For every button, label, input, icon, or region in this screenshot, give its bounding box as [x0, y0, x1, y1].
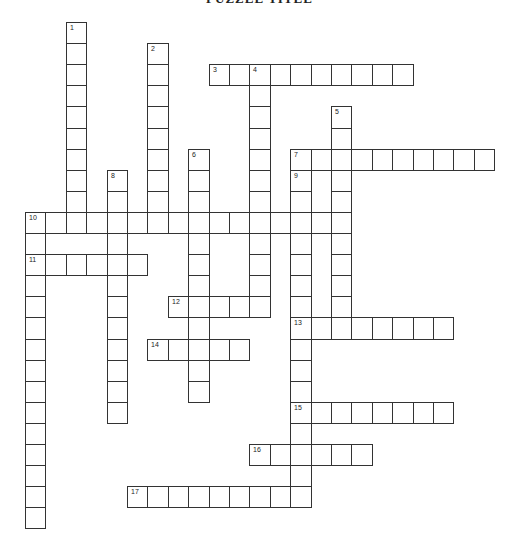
crossword-cell[interactable]	[311, 317, 332, 340]
crossword-cell[interactable]: 11	[25, 254, 46, 276]
crossword-cell[interactable]	[249, 128, 271, 150]
crossword-cell[interactable]	[229, 64, 250, 86]
crossword-cell[interactable]	[25, 423, 46, 445]
crossword-cell[interactable]	[413, 149, 434, 171]
crossword-cell[interactable]	[229, 339, 250, 361]
crossword-cell[interactable]	[290, 254, 312, 276]
crossword-cell[interactable]	[311, 149, 332, 171]
crossword-cell[interactable]	[188, 233, 210, 255]
crossword-cell[interactable]	[290, 233, 312, 255]
crossword-cell[interactable]: 8	[107, 170, 128, 192]
crossword-cell[interactable]	[392, 402, 414, 424]
crossword-cell[interactable]	[331, 233, 352, 255]
crossword-cell[interactable]	[433, 402, 454, 424]
crossword-cell[interactable]	[107, 275, 128, 297]
crossword-cell[interactable]	[188, 486, 210, 508]
crossword-cell[interactable]	[25, 233, 46, 255]
crossword-cell[interactable]	[147, 486, 169, 508]
crossword-cell[interactable]	[66, 254, 87, 276]
crossword-cell[interactable]	[229, 212, 250, 234]
crossword-cell[interactable]	[168, 486, 189, 508]
crossword-cell[interactable]	[249, 486, 271, 508]
crossword-cell[interactable]	[290, 64, 312, 86]
crossword-cell[interactable]	[66, 170, 87, 192]
crossword-cell[interactable]	[209, 486, 230, 508]
crossword-cell[interactable]: 15	[290, 402, 312, 424]
crossword-cell[interactable]	[474, 149, 495, 171]
crossword-cell[interactable]	[66, 85, 87, 107]
crossword-cell[interactable]	[290, 339, 312, 361]
crossword-cell[interactable]	[311, 402, 332, 424]
crossword-cell[interactable]	[107, 317, 128, 340]
crossword-cell[interactable]	[86, 212, 108, 234]
crossword-cell[interactable]: 12	[168, 296, 189, 318]
crossword-cell[interactable]: 1	[66, 22, 87, 44]
crossword-cell[interactable]	[331, 64, 352, 86]
crossword-cell[interactable]	[372, 402, 393, 424]
crossword-cell[interactable]	[25, 444, 46, 466]
crossword-cell[interactable]	[331, 296, 352, 318]
crossword-cell[interactable]	[127, 254, 148, 276]
crossword-cell[interactable]	[25, 275, 46, 297]
crossword-cell[interactable]	[188, 191, 210, 213]
crossword-cell[interactable]	[66, 212, 87, 234]
crossword-cell[interactable]	[107, 296, 128, 318]
crossword-cell[interactable]	[413, 402, 434, 424]
crossword-cell[interactable]	[392, 317, 414, 340]
crossword-cell[interactable]	[188, 381, 210, 403]
crossword-cell[interactable]	[331, 402, 352, 424]
crossword-cell[interactable]	[270, 64, 291, 86]
crossword-cell[interactable]	[311, 212, 332, 234]
crossword-cell[interactable]	[66, 43, 87, 65]
crossword-cell[interactable]: 2	[147, 43, 169, 65]
crossword-cell[interactable]	[45, 254, 67, 276]
crossword-cell[interactable]: 13	[290, 317, 312, 340]
crossword-cell[interactable]	[392, 64, 414, 86]
crossword-cell[interactable]	[331, 212, 352, 234]
crossword-cell[interactable]	[107, 254, 128, 276]
crossword-cell[interactable]	[25, 360, 46, 382]
crossword-cell[interactable]	[290, 360, 312, 382]
crossword-cell[interactable]	[147, 149, 169, 171]
crossword-cell[interactable]	[107, 339, 128, 361]
crossword-cell[interactable]	[86, 254, 108, 276]
crossword-cell[interactable]	[66, 149, 87, 171]
crossword-cell[interactable]	[392, 149, 414, 171]
crossword-cell[interactable]	[229, 296, 250, 318]
crossword-cell[interactable]	[147, 106, 169, 129]
crossword-cell[interactable]: 6	[188, 149, 210, 171]
crossword-cell[interactable]	[107, 191, 128, 213]
crossword-cell[interactable]	[413, 317, 434, 340]
crossword-cell[interactable]	[25, 465, 46, 487]
crossword-cell[interactable]	[147, 85, 169, 107]
crossword-cell[interactable]	[270, 212, 291, 234]
crossword-cell[interactable]	[188, 275, 210, 297]
crossword-cell[interactable]	[249, 191, 271, 213]
crossword-cell[interactable]	[290, 212, 312, 234]
crossword-cell[interactable]	[168, 339, 189, 361]
crossword-cell[interactable]	[188, 296, 210, 318]
crossword-cell[interactable]: 9	[290, 170, 312, 192]
crossword-cell[interactable]	[66, 64, 87, 86]
crossword-cell[interactable]	[453, 149, 475, 171]
crossword-cell[interactable]	[127, 212, 148, 234]
crossword-cell[interactable]	[331, 444, 352, 466]
crossword-cell[interactable]	[188, 170, 210, 192]
crossword-cell[interactable]	[229, 486, 250, 508]
crossword-cell[interactable]	[290, 381, 312, 403]
crossword-cell[interactable]: 7	[290, 149, 312, 171]
crossword-cell[interactable]	[311, 64, 332, 86]
crossword-cell[interactable]	[209, 212, 230, 234]
crossword-cell[interactable]	[45, 212, 67, 234]
crossword-cell[interactable]	[270, 444, 291, 466]
crossword-cell[interactable]	[209, 339, 230, 361]
crossword-cell[interactable]	[290, 465, 312, 487]
crossword-cell[interactable]	[25, 402, 46, 424]
crossword-cell[interactable]	[331, 191, 352, 213]
crossword-cell[interactable]	[25, 317, 46, 340]
crossword-cell[interactable]: 5	[331, 106, 352, 129]
crossword-cell[interactable]	[249, 233, 271, 255]
crossword-cell[interactable]	[188, 212, 210, 234]
crossword-cell[interactable]	[66, 191, 87, 213]
crossword-cell[interactable]	[66, 106, 87, 129]
